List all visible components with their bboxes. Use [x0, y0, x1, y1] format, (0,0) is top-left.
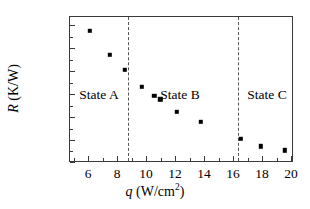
x-minor-tick-11 — [161, 158, 162, 161]
x-minor-tick-9 — [132, 158, 133, 161]
data-point — [259, 144, 263, 148]
data-point — [238, 137, 242, 141]
x-tick-18 — [262, 156, 263, 161]
y-axis-title: R (K/W) — [6, 29, 21, 149]
y-tick-0.45 — [70, 94, 75, 95]
x-minor-tick-13 — [190, 158, 191, 161]
x-tick-label-10: 10 — [131, 167, 161, 181]
y-minor-tick-0.525 — [70, 60, 73, 61]
y-axis-unit: (K/W) — [6, 64, 21, 104]
y-minor-tick-0.325 — [70, 151, 73, 152]
x-tick-label-18: 18 — [247, 167, 277, 181]
data-point — [140, 84, 144, 88]
x-tick-label-16: 16 — [218, 167, 248, 181]
y-minor-tick-0.475 — [70, 83, 73, 84]
x-tick-label-6: 6 — [73, 167, 103, 181]
x-tick-10 — [146, 156, 147, 161]
data-point — [88, 28, 92, 32]
data-point — [283, 148, 287, 152]
region-label-state-b: State B — [160, 88, 199, 102]
region-divider-a-b — [128, 17, 129, 161]
x-tick-12 — [175, 156, 176, 161]
data-point — [107, 52, 111, 56]
x-tick-label-14: 14 — [189, 167, 219, 181]
x-tick-14 — [204, 156, 205, 161]
x-tick-label-8: 8 — [102, 167, 132, 181]
x-tick-6 — [88, 156, 89, 161]
x-minor-tick-7 — [103, 158, 104, 161]
y-tick-0.40 — [70, 117, 75, 118]
x-minor-tick-17 — [248, 158, 249, 161]
y-axis-symbol: R — [6, 104, 21, 113]
x-axis-title: q (W/cm2) — [0, 184, 310, 199]
y-tick-0.50 — [70, 71, 75, 72]
data-point — [122, 68, 126, 72]
scatter-chart-figure: State A State B State C 0.60 0.55 0.50 0… — [0, 0, 310, 209]
data-point — [152, 93, 156, 97]
y-minor-tick-0.425 — [70, 106, 73, 107]
y-tick-0.30 — [70, 162, 75, 163]
data-point — [175, 109, 179, 113]
x-minor-tick-5 — [74, 158, 75, 161]
x-tick-label-12: 12 — [160, 167, 190, 181]
x-minor-tick-15 — [219, 158, 220, 161]
region-label-state-a: State A — [79, 88, 118, 102]
x-tick-8 — [117, 156, 118, 161]
x-tick-20 — [291, 156, 292, 161]
x-tick-label-20: 20 — [276, 167, 306, 181]
x-tick-16 — [233, 156, 234, 161]
y-tick-0.60 — [70, 25, 75, 26]
y-tick-0.55 — [70, 48, 75, 49]
data-point — [199, 119, 203, 123]
x-minor-tick-19 — [277, 158, 278, 161]
plot-area: State A State B State C 0.60 0.55 0.50 0… — [69, 16, 293, 162]
x-axis-symbol: q — [126, 184, 133, 199]
y-tick-0.35 — [70, 140, 75, 141]
x-axis-unit-open: (W/cm — [133, 184, 175, 199]
region-label-state-c: State C — [247, 88, 286, 102]
x-axis-unit-close: ) — [180, 184, 185, 199]
y-minor-tick-0.575 — [70, 37, 73, 38]
y-minor-tick-0.375 — [70, 129, 73, 130]
